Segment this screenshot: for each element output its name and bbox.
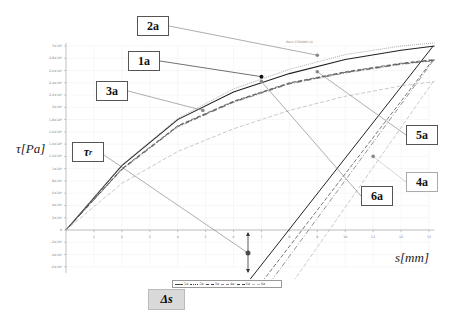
svg-text:13: 13 (427, 235, 431, 239)
unloading-lines (250, 46, 433, 279)
delta-s-label: Δs (148, 289, 185, 310)
svg-text:8×10⁵: 8×10⁵ (52, 179, 63, 183)
label-2a: 2a (137, 16, 169, 36)
svg-text:11: 11 (371, 235, 375, 239)
svg-text:1.4×10⁶: 1.4×10⁶ (49, 142, 63, 146)
svg-text:1×10⁶: 1×10⁶ (52, 167, 63, 171)
legend-item-6a: 6a (252, 282, 265, 286)
svg-text:2×10⁵: 2×10⁵ (52, 216, 63, 220)
svg-text:10: 10 (343, 235, 347, 239)
svg-text:4×10⁵: 4×10⁵ (52, 203, 63, 207)
svg-text:2.2×10⁶: 2.2×10⁶ (49, 93, 63, 97)
legend-item-1a: 1a (175, 282, 188, 286)
chart-canvas: 123456789101112133×10⁶2.8×10⁶2.6×10⁶2.4×… (0, 0, 452, 317)
svg-text:2.6×10⁶: 2.6×10⁶ (49, 69, 63, 73)
label-1a: 1a (128, 51, 160, 71)
svg-text:-2×10⁵: -2×10⁵ (51, 240, 63, 244)
label-6a: 6a (361, 186, 393, 206)
svg-text:3×10⁶: 3×10⁶ (52, 44, 63, 48)
label-tau-r: τr (72, 142, 104, 162)
legend-item-4a: 4a (221, 282, 234, 286)
svg-text:6×10⁵: 6×10⁵ (52, 191, 63, 195)
svg-text:2.4×10⁶: 2.4×10⁶ (49, 81, 63, 85)
svg-text:1.8×10⁶: 1.8×10⁶ (49, 118, 63, 122)
legend-item-2a: 2a (190, 282, 203, 286)
svg-text:5: 5 (205, 235, 207, 239)
svg-text:-6×10⁵: -6×10⁵ (51, 265, 63, 269)
svg-text:2×10⁶: 2×10⁶ (52, 105, 63, 109)
top-note: Revit 3700000 (4) (286, 40, 313, 44)
svg-text:-4×10⁵: -4×10⁵ (51, 253, 63, 257)
label-5a: 5a (406, 125, 438, 145)
y-axis-title: τ[Pa] (16, 141, 45, 157)
svg-text:3: 3 (149, 235, 151, 239)
legend-item-5a: 5a (237, 282, 250, 286)
svg-text:1.6×10⁶: 1.6×10⁶ (49, 130, 63, 134)
x-axis-title: s[mm] (395, 250, 429, 266)
label-3a: 3a (96, 81, 128, 101)
label-4a: 4a (406, 172, 438, 192)
svg-text:2: 2 (121, 235, 123, 239)
svg-text:0: 0 (60, 228, 62, 232)
tau-r-subscript: r (89, 148, 92, 157)
svg-text:7: 7 (260, 235, 262, 239)
svg-text:1: 1 (93, 235, 95, 239)
svg-text:8: 8 (288, 235, 290, 239)
svg-text:6: 6 (233, 235, 235, 239)
svg-text:2.8×10⁶: 2.8×10⁶ (49, 56, 63, 60)
legend: 1a 2a 3a 4a 5a 6a (172, 280, 282, 288)
legend-item-3a: 3a (206, 282, 219, 286)
svg-text:9: 9 (316, 235, 318, 239)
svg-text:1.2×10⁶: 1.2×10⁶ (49, 154, 63, 158)
svg-text:12: 12 (399, 235, 403, 239)
svg-text:4: 4 (177, 235, 179, 239)
